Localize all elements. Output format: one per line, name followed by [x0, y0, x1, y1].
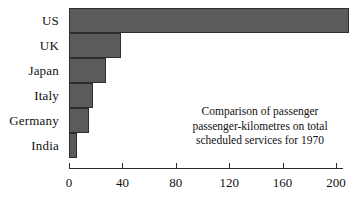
bar-india [69, 133, 77, 158]
axis-tick-200 [336, 163, 337, 169]
bar-germany [69, 108, 89, 133]
axis-tick-label-120: 120 [209, 176, 249, 190]
bar-chart-figure: US UK Japan Italy Germany India 04080120… [0, 0, 352, 204]
category-label-us: US [0, 14, 59, 27]
category-label-uk: UK [0, 39, 59, 52]
axis-tick-label-160: 160 [263, 176, 303, 190]
axis-tick-label-80: 80 [156, 176, 196, 190]
chart-caption: Comparison of passenger passenger-kilome… [172, 104, 348, 148]
axis-tick-120 [229, 163, 230, 169]
caption-line-3: scheduled services for 1970 [172, 133, 348, 148]
value-axis: 04080120160200 [69, 168, 352, 202]
axis-tick-label-200: 200 [316, 176, 352, 190]
axis-tick-40 [122, 163, 123, 169]
axis-tick-160 [283, 163, 284, 169]
axis-tick-80 [176, 163, 177, 169]
bar-uk [69, 33, 121, 58]
category-label-germany: Germany [0, 114, 59, 127]
bar-japan [69, 58, 106, 83]
category-label-japan: Japan [0, 64, 59, 77]
caption-line-2: passenger-kilometres on total [172, 119, 348, 134]
axis-tick-0 [69, 163, 70, 169]
caption-line-1: Comparison of passenger [172, 104, 348, 119]
category-axis-labels: US UK Japan Italy Germany India [0, 8, 64, 160]
axis-line [69, 168, 343, 169]
bar-italy [69, 83, 93, 108]
axis-tick-label-40: 40 [102, 176, 142, 190]
axis-tick-label-0: 0 [49, 176, 89, 190]
category-label-india: India [0, 139, 59, 152]
bar-us [69, 8, 349, 33]
category-label-italy: Italy [0, 89, 59, 102]
